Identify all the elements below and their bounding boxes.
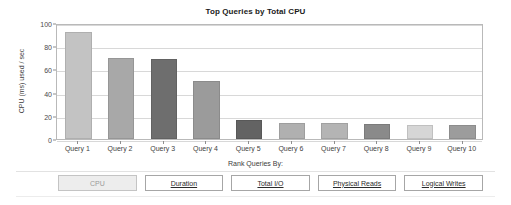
bar-slot[interactable]: [57, 25, 100, 139]
plot-area: [56, 24, 483, 140]
page-title: Top Queries by Total CPU: [0, 7, 511, 16]
x-tick-mark: [462, 141, 463, 144]
y-axis-label: CPU (ms) used / sec: [14, 22, 28, 140]
bar-slot[interactable]: [399, 25, 442, 139]
bar-slot[interactable]: [100, 25, 143, 139]
bar[interactable]: [151, 59, 177, 139]
bar-slot[interactable]: [142, 25, 185, 139]
bar-slot[interactable]: [185, 25, 228, 139]
y-tick-label: 20: [44, 113, 52, 120]
rank-queries-caption: Rank Queries By:: [0, 160, 511, 167]
bar[interactable]: [449, 125, 475, 140]
bar-series: [57, 25, 482, 139]
x-tick-label: Query 8: [355, 145, 398, 152]
bar[interactable]: [407, 125, 433, 139]
x-tick-mark: [419, 141, 420, 144]
x-axis-labels: Query 1Query 2Query 3Query 4Query 5Query…: [56, 141, 483, 155]
x-tick-label: Query 6: [270, 145, 313, 152]
bar[interactable]: [65, 32, 91, 139]
rank-queries-button-row: CPUDurationTotal I/OPhysical ReadsLogica…: [58, 175, 483, 191]
bar-slot[interactable]: [313, 25, 356, 139]
rank-button-physical-reads[interactable]: Physical Reads: [318, 175, 397, 191]
query-cpu-chart-panel: Top Queries by Total CPU CPU (ms) used /…: [0, 0, 511, 205]
bar[interactable]: [236, 120, 262, 139]
bar[interactable]: [108, 58, 134, 139]
x-tick-mark: [205, 141, 206, 144]
x-tick-mark: [77, 141, 78, 144]
rank-button-duration[interactable]: Duration: [145, 175, 224, 191]
bar[interactable]: [279, 123, 305, 139]
x-tick-label: Query 9: [398, 145, 441, 152]
y-tick-label: 100: [40, 21, 52, 28]
x-tick-label: Query 5: [227, 145, 270, 152]
rank-button-cpu: CPU: [58, 175, 137, 191]
x-tick-mark: [334, 141, 335, 144]
x-tick-label: Query 2: [99, 145, 142, 152]
x-tick-mark: [248, 141, 249, 144]
y-axis-label-text: CPU (ms) used / sec: [18, 49, 25, 114]
bar-slot[interactable]: [441, 25, 484, 139]
x-tick-label: Query 1: [56, 145, 99, 152]
footer-divider-top: [16, 171, 495, 172]
footer-divider-bottom: [16, 196, 495, 197]
bar-slot[interactable]: [271, 25, 314, 139]
x-tick-mark: [291, 141, 292, 144]
x-tick-mark: [376, 141, 377, 144]
bar[interactable]: [321, 123, 347, 139]
rank-button-logical-writes[interactable]: Logical Writes: [404, 175, 483, 191]
y-tick-label: 60: [44, 67, 52, 74]
bar[interactable]: [193, 81, 219, 139]
bar[interactable]: [364, 124, 390, 139]
y-tick-label: 0: [48, 137, 52, 144]
x-tick-label: Query 4: [184, 145, 227, 152]
x-tick-label: Query 10: [440, 145, 483, 152]
y-axis-ticks: 020406080100: [30, 24, 56, 140]
y-tick-label: 80: [44, 44, 52, 51]
bar-slot[interactable]: [356, 25, 399, 139]
rank-button-total-i-o[interactable]: Total I/O: [231, 175, 310, 191]
x-tick-mark: [120, 141, 121, 144]
y-tick-label: 40: [44, 90, 52, 97]
bar-slot[interactable]: [228, 25, 271, 139]
x-tick-mark: [163, 141, 164, 144]
x-tick-label: Query 3: [141, 145, 184, 152]
x-tick-label: Query 7: [312, 145, 355, 152]
